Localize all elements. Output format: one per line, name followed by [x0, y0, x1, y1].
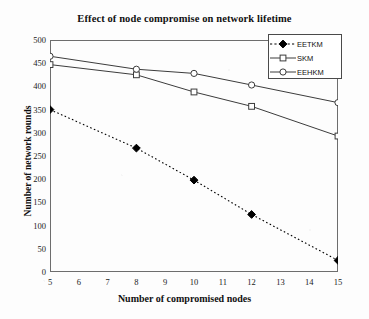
y-tick-label: 500 [4, 35, 46, 45]
data-point-marker-diamond [248, 211, 256, 219]
data-point-marker-diamond [190, 176, 198, 184]
data-point-marker-square [191, 89, 197, 95]
y-axis-label: Number of network rounds [23, 71, 33, 251]
data-point-marker-circle [280, 69, 286, 75]
x-tick-label: 8 [121, 277, 151, 287]
x-tick-label: 10 [179, 277, 209, 287]
chart-legend: EETKMSKMEEHKM [268, 34, 342, 79]
y-tick-label: 450 [4, 58, 46, 68]
x-tick-label: 9 [150, 277, 180, 287]
x-axis-ticks: 56789101112131415 [0, 277, 369, 291]
x-tick-label: 13 [265, 277, 295, 287]
legend-sample-eehkm [269, 65, 297, 79]
data-point-marker-circle [249, 82, 255, 88]
series-eetkm [50, 106, 338, 265]
data-point-marker-diamond [279, 40, 287, 48]
legend-item-skm[interactable]: SKM [269, 51, 341, 65]
x-tick-label: 11 [208, 277, 238, 287]
data-point-marker-diamond [334, 257, 338, 265]
data-point-marker-circle [50, 53, 53, 59]
x-tick-label: 14 [294, 277, 324, 287]
x-axis-label: Number of compromised nodes [0, 293, 369, 304]
x-tick-label: 6 [64, 277, 94, 287]
x-tick-label: 12 [237, 277, 267, 287]
y-tick-label: 0 [4, 267, 46, 277]
data-point-marker-square [50, 62, 53, 68]
chart-title: Effect of node compromise on network lif… [0, 13, 369, 24]
series-line-eetkm [50, 110, 338, 261]
legend-sample-eetkm [269, 37, 297, 51]
legend-item-eetkm[interactable]: EETKM [269, 37, 341, 51]
legend-label: EEHKM [297, 68, 324, 77]
data-point-marker-circle [133, 66, 139, 72]
chart-figure: Effect of node compromise on network lif… [0, 0, 369, 319]
data-point-marker-diamond [133, 144, 141, 152]
legend-label: SKM [297, 54, 313, 63]
x-tick-label: 15 [323, 277, 353, 287]
legend-sample-skm [269, 51, 297, 65]
data-point-marker-circle [191, 70, 197, 76]
data-point-marker-square [280, 55, 286, 61]
legend-item-eehkm[interactable]: EEHKM [269, 65, 341, 79]
x-tick-label: 5 [35, 277, 65, 287]
data-point-marker-square [249, 103, 255, 109]
legend-label: EETKM [297, 40, 323, 49]
data-point-marker-circle [335, 100, 338, 106]
data-point-marker-square [335, 133, 338, 139]
x-tick-label: 7 [93, 277, 123, 287]
data-point-marker-diamond [50, 106, 54, 114]
